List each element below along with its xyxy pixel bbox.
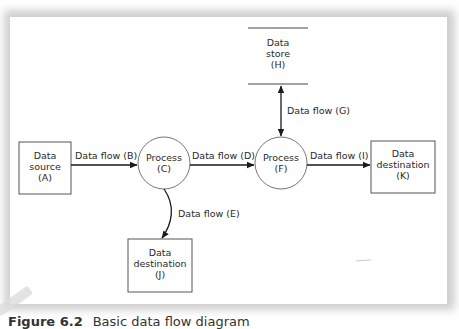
node-h-line-3: (H) bbox=[248, 59, 308, 70]
node-j-line-3: (J) bbox=[128, 269, 192, 280]
node-k-line-1: Data bbox=[371, 148, 435, 159]
node-c-line-2: (C) bbox=[138, 163, 190, 174]
node-a-line-2: source bbox=[19, 161, 71, 172]
node-h-label: Data store (H) bbox=[248, 37, 308, 70]
caption-number: Figure 6.2 bbox=[8, 314, 83, 329]
edge-e bbox=[162, 189, 171, 238]
node-a-label: Data source (A) bbox=[19, 150, 71, 183]
node-f-line-1: Process bbox=[255, 152, 307, 163]
node-j-line-1: Data bbox=[128, 247, 192, 258]
node-f-label: Process (F) bbox=[255, 152, 307, 174]
node-k-line-3: (K) bbox=[371, 170, 435, 181]
node-j-line-2: destination bbox=[128, 258, 192, 269]
node-a-line-3: (A) bbox=[19, 172, 71, 183]
node-f-line-2: (F) bbox=[255, 163, 307, 174]
node-k-line-2: destination bbox=[371, 159, 435, 170]
edge-b-label: Data flow (B) bbox=[75, 150, 137, 161]
caption-text: Basic data flow diagram bbox=[93, 314, 250, 329]
node-k-label: Data destination (K) bbox=[371, 148, 435, 181]
node-h-line-2: store bbox=[248, 48, 308, 59]
node-j-label: Data destination (J) bbox=[128, 247, 192, 280]
node-h-line-1: Data bbox=[248, 37, 308, 48]
figure-caption: Figure 6.2Basic data flow diagram bbox=[8, 314, 250, 329]
edge-e-label: Data flow (E) bbox=[178, 208, 240, 219]
smudge bbox=[356, 260, 371, 261]
node-a-line-1: Data bbox=[19, 150, 71, 161]
edge-i-label: Data flow (I) bbox=[310, 150, 369, 161]
node-c-label: Process (C) bbox=[138, 152, 190, 174]
edge-d-label: Data flow (D) bbox=[192, 150, 255, 161]
node-c-line-1: Process bbox=[138, 152, 190, 163]
edge-g-label: Data flow (G) bbox=[287, 105, 350, 116]
